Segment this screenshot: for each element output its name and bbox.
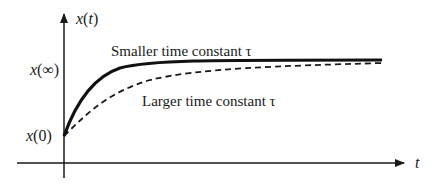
y-tick-final: x(∞) (29, 61, 59, 79)
curve-label-larger-tau: Larger time constant τ (142, 93, 276, 109)
curve-label-smaller-tau: Smaller time constant τ (111, 43, 252, 59)
y-axis-label: x(t) (75, 10, 98, 28)
step-response-diagram: x(t) t x(∞) x(0) Smaller time constant τ… (0, 0, 437, 188)
x-axis-label: t (415, 154, 420, 171)
y-tick-initial: x(0) (25, 127, 52, 145)
